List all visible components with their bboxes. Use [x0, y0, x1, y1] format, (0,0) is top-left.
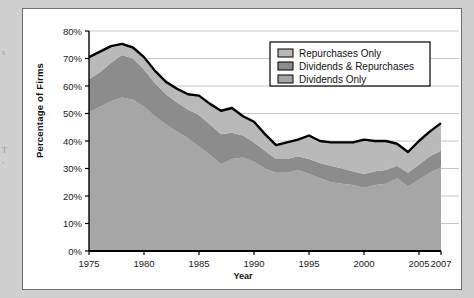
x-axis-tick-label: 1975: [78, 258, 99, 269]
x-axis-tick-label: 1990: [243, 258, 264, 269]
legend-label: Dividends & Repurchases: [299, 61, 414, 72]
legend-label: Repurchases Only: [299, 48, 381, 59]
page-edge-ghost-glyph: s: [2, 48, 6, 57]
figure-page: s T , Percentage of Firms Year 0%10%20%3…: [0, 0, 474, 298]
y-axis-tick-label: 80%: [63, 26, 83, 37]
x-axis-tick-label: 1995: [298, 258, 319, 269]
y-axis-tick-label: 40%: [63, 136, 83, 147]
page-edge-ghost-glyph: ,: [2, 156, 5, 165]
legend-swatch: [278, 75, 293, 83]
legend-swatch: [278, 49, 293, 57]
stacked-area-chart: 0%10%20%30%40%50%60%70%80%19751980198519…: [23, 9, 463, 291]
legend-label: Dividends Only: [299, 74, 366, 85]
y-axis-tick-label: 0%: [68, 246, 82, 257]
x-axis-tick-label: 1980: [133, 258, 154, 269]
y-axis-tick-label: 60%: [63, 81, 83, 92]
page-edge-ghost-glyph: T: [2, 146, 7, 155]
x-axis-tick-label: 2005: [408, 258, 429, 269]
x-axis-tick-label: 2007: [430, 258, 451, 269]
y-axis-tick-label: 20%: [63, 191, 83, 202]
x-axis-tick-label: 2000: [353, 258, 374, 269]
x-axis-tick-label: 1985: [188, 258, 209, 269]
y-axis-tick-label: 70%: [63, 53, 83, 64]
y-axis-tick-label: 10%: [63, 218, 83, 229]
legend-swatch: [278, 62, 293, 70]
y-axis-tick-label: 30%: [63, 163, 83, 174]
chart-figure-frame: Percentage of Firms Year 0%10%20%30%40%5…: [22, 8, 462, 290]
y-axis-tick-label: 50%: [63, 108, 83, 119]
